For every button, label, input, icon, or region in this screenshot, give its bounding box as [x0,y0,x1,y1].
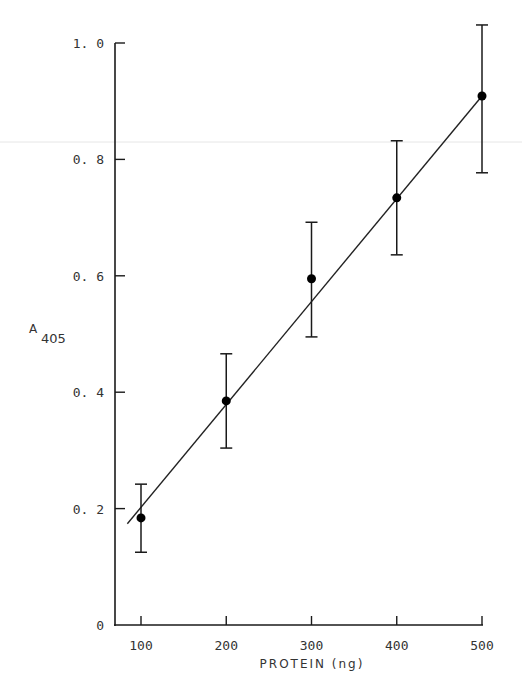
x-axis-title: PROTEIN (ng) [260,657,365,671]
x-tick-label: 200 [215,638,238,653]
y-tick-label: 0. 2 [73,502,104,517]
data-point [478,91,487,100]
data-point [392,193,401,202]
y-tick-label: 0 [96,618,104,633]
data-points [135,25,488,552]
x-tick-label: 100 [129,638,152,653]
y-axis-title: A [29,322,38,336]
data-point [222,396,231,405]
x-tick-label: 400 [385,638,408,653]
regression-line [127,96,482,524]
fit-line [127,96,482,524]
x-tick-label: 300 [300,638,323,653]
chart-canvas: 00. 20. 40. 60. 81. 0100200300400500 PRO… [0,0,522,700]
data-point [307,274,316,283]
x-tick-label: 500 [470,638,493,653]
y-tick-label: 0. 6 [73,269,104,284]
y-tick-label: 0. 8 [73,152,104,167]
axis-labels: PROTEIN (ng)A405 [29,322,364,671]
y-tick-label: 0. 4 [73,385,104,400]
axes: 00. 20. 40. 60. 81. 0100200300400500 [73,36,494,653]
data-point [137,513,146,522]
y-axis-title-subscript: 405 [41,331,66,346]
y-tick-label: 1. 0 [73,36,104,51]
